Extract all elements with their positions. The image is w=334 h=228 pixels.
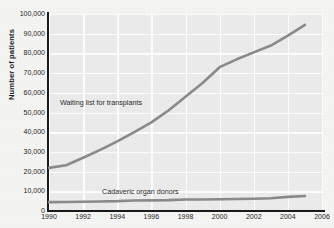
annotation-cadaveric-donors: Cadaveric organ donors xyxy=(102,187,179,196)
series-line-waiting-list xyxy=(49,25,305,168)
chart-figure: Number of patients 010,00020,00030,00040… xyxy=(0,0,334,228)
series-line-cadaveric-donors xyxy=(49,196,305,202)
annotation-waiting-list: Waiting list for transplants xyxy=(60,98,142,107)
